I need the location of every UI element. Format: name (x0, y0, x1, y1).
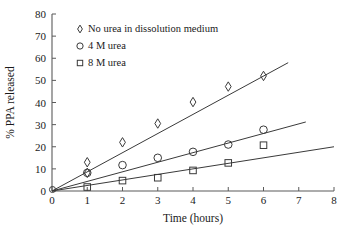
x-tick-group: 012345678 (49, 187, 337, 206)
legend: No urea in dissolution medium4 M urea8 M… (77, 23, 218, 68)
legend-label-0: No urea in dissolution medium (88, 23, 218, 34)
y-tick-label: 10 (35, 163, 47, 175)
x-axis-title: Time (hours) (163, 212, 223, 225)
series-square (52, 142, 334, 191)
plot-area: 01234567801020304050607080Time (hours)% … (0, 0, 354, 233)
x-tick-label: 7 (296, 194, 302, 206)
legend-item-1: 4 M urea (77, 40, 126, 51)
x-tick-label: 4 (190, 194, 196, 206)
y-tick-label: 20 (35, 141, 47, 153)
chart-figure: 01234567801020304050607080Time (hours)% … (0, 0, 354, 233)
legend-marker-square (77, 60, 82, 65)
y-tick-label: 40 (35, 97, 47, 109)
data-point-diamond (84, 158, 90, 167)
x-tick-label: 2 (120, 194, 126, 206)
data-point-square (260, 142, 267, 149)
data-point-diamond (190, 97, 196, 106)
y-tick-label: 50 (35, 74, 47, 86)
y-tick-label: 30 (35, 119, 47, 131)
x-tick-label: 8 (331, 194, 337, 206)
data-point-circle (119, 161, 127, 169)
legend-marker-circle (77, 43, 83, 49)
data-point-square (154, 174, 161, 181)
x-tick-label: 5 (226, 194, 232, 206)
trend-line-diamond (52, 63, 288, 191)
y-tick-label: 0 (41, 185, 47, 197)
data-point-circle (154, 154, 162, 162)
y-axis-title: % PPA released (4, 66, 16, 139)
x-tick-label: 3 (155, 194, 161, 206)
y-tick-group: 01020304050607080 (35, 8, 56, 197)
trend-line-circle (52, 122, 306, 191)
series-circle (52, 122, 306, 191)
data-point-diamond (120, 138, 126, 147)
trend-line-square (52, 147, 334, 191)
series-diamond (52, 63, 288, 191)
data-point-diamond (155, 119, 161, 128)
legend-label-2: 8 M urea (88, 57, 126, 68)
data-point-circle (260, 126, 268, 134)
data-point-circle (224, 141, 232, 149)
y-tick-label: 60 (35, 52, 47, 64)
x-tick-label: 1 (85, 194, 91, 206)
y-tick-label: 70 (35, 30, 47, 42)
data-point-diamond (225, 82, 231, 91)
x-tick-label: 0 (49, 194, 55, 206)
legend-item-0: No urea in dissolution medium (78, 23, 218, 34)
legend-label-1: 4 M urea (88, 40, 126, 51)
y-tick-label: 80 (35, 8, 47, 20)
legend-item-2: 8 M urea (77, 57, 126, 68)
legend-marker-diamond (78, 25, 83, 33)
x-tick-label: 6 (261, 194, 267, 206)
